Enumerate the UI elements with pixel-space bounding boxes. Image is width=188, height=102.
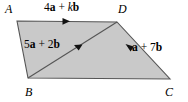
- vector-cd-operator: +: [138, 41, 150, 53]
- vector-label-ad: 4a + kb: [44, 2, 79, 14]
- vector-ad-operator: +: [56, 1, 68, 13]
- vertex-label-a: A: [5, 3, 12, 15]
- vector-label-cd: a + 7b: [132, 42, 162, 54]
- vertex-label-c: C: [165, 86, 173, 98]
- vertex-label-b: B: [25, 86, 32, 98]
- vector-diagram: A D B C 4a + kb 5a + 2b a + 7b: [0, 0, 188, 102]
- vector-bd-basis-b: b: [54, 38, 60, 50]
- vector-bd-operator: +: [36, 38, 48, 50]
- vector-label-bd: 5a + 2b: [24, 39, 60, 51]
- vector-cd-basis-b: b: [156, 41, 162, 53]
- vertex-label-d: D: [118, 3, 127, 15]
- vector-ad-basis-b: b: [73, 1, 79, 13]
